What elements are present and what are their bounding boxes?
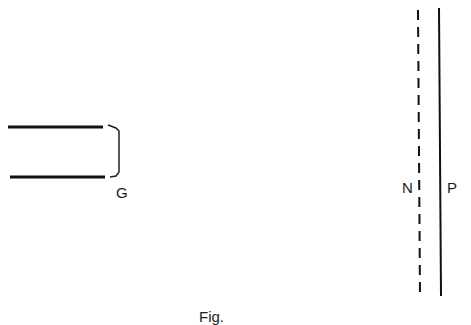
screen-n-line bbox=[418, 10, 420, 296]
grid-label: G bbox=[116, 185, 128, 200]
screen-p-line bbox=[439, 8, 441, 296]
grid-bracket bbox=[108, 125, 119, 177]
screen-p-label: P bbox=[447, 180, 457, 195]
screen-n-label: N bbox=[402, 180, 413, 195]
figure-caption: Fig. bbox=[199, 309, 224, 324]
